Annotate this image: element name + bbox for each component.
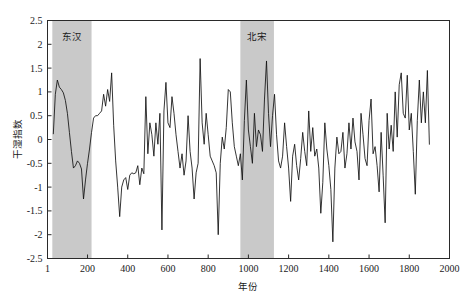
x-axis-tick-labels: 1200400600800100012001400160018002000 [45, 263, 460, 274]
x-tick-label: 1800 [399, 263, 419, 274]
x-tick-label: 1400 [319, 263, 339, 274]
x-tick-label: 200 [80, 263, 95, 274]
y-tick-label: 0 [38, 134, 43, 145]
y-axis-title: 干湿指数 [12, 119, 23, 159]
y-axis-tick-labels: -2.5-2-1.5-1-0.500.511.522.5 [27, 15, 43, 264]
y-tick-label: -1.5 [27, 205, 43, 216]
dry-wet-index-line-chart: 1200400600800100012001400160018002000 -2… [0, 0, 473, 301]
y-tick-label: -2.5 [27, 253, 43, 264]
dynasty-label-eastern-han: 东汉 [62, 31, 82, 42]
x-tick-label: 800 [201, 263, 216, 274]
y-tick-label: -0.5 [27, 158, 43, 169]
dynasty-band-eastern-han [52, 21, 91, 259]
x-tick-label: 1 [45, 263, 50, 274]
x-tick-label: 2000 [440, 263, 460, 274]
y-tick-label: -2 [34, 229, 42, 240]
x-tick-label: 1000 [238, 263, 258, 274]
dynasty-band-labels: 东汉北宋 [62, 31, 267, 42]
x-axis-ticks [48, 255, 450, 259]
y-tick-label: 0.5 [30, 110, 43, 121]
y-tick-label: 1.5 [30, 63, 43, 74]
y-tick-label: 1 [38, 86, 43, 97]
x-tick-label: 1200 [279, 263, 299, 274]
x-tick-label: 600 [160, 263, 175, 274]
y-axis-ticks [48, 21, 52, 259]
y-tick-label: 2.5 [30, 15, 43, 26]
y-tick-label: -1 [34, 182, 42, 193]
y-tick-label: 2 [38, 39, 43, 50]
x-tick-label: 400 [120, 263, 135, 274]
x-tick-label: 1600 [359, 263, 379, 274]
x-axis-title: 年份 [238, 281, 258, 292]
dynasty-label-northern-song: 北宋 [247, 31, 267, 42]
chart-figure: 1200400600800100012001400160018002000 -2… [0, 0, 473, 301]
